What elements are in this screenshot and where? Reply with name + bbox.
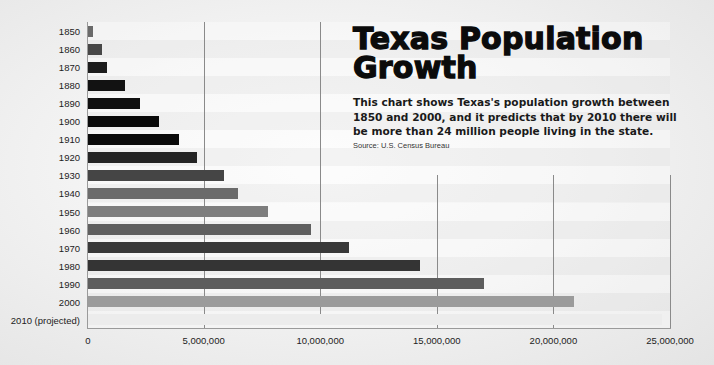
x-tick-label: 0 <box>85 335 90 346</box>
bar <box>88 116 159 127</box>
bar <box>88 44 102 55</box>
x-tick-label: 10,000,000 <box>296 335 344 346</box>
bar <box>88 188 238 199</box>
chart-title: Texas Population Growth <box>353 24 683 82</box>
x-axis-line <box>87 328 671 329</box>
category-label: 2010 (projected) <box>0 315 80 326</box>
y-axis-line <box>87 22 88 329</box>
x-tick-label: 15,000,000 <box>413 335 461 346</box>
category-label: 1980 <box>0 261 80 272</box>
bar <box>88 242 349 253</box>
chart-description: This chart shows Texas's population grow… <box>353 95 693 139</box>
bar <box>88 26 93 37</box>
x-tick-label: 20,000,000 <box>530 335 578 346</box>
category-label: 1920 <box>0 152 80 163</box>
bar <box>88 278 484 289</box>
bar <box>88 80 125 91</box>
category-label: 1990 <box>0 279 80 290</box>
category-label: 1970 <box>0 243 80 254</box>
bar <box>88 260 420 271</box>
category-label: 1900 <box>0 116 80 127</box>
x-tick-label: 25,000,000 <box>646 335 694 346</box>
category-label: 1890 <box>0 98 80 109</box>
bar <box>88 206 268 217</box>
gridline <box>320 22 321 320</box>
category-label: 1940 <box>0 188 80 199</box>
bar <box>88 224 311 235</box>
category-label: 1960 <box>0 225 80 236</box>
category-label: 1870 <box>0 62 80 73</box>
bar <box>88 170 224 181</box>
bar <box>88 98 140 109</box>
category-label: 1950 <box>0 207 80 218</box>
category-label: 1910 <box>0 134 80 145</box>
category-label: 1880 <box>0 80 80 91</box>
bar <box>88 134 179 145</box>
x-tick-label: 5,000,000 <box>182 335 224 346</box>
bar <box>88 314 662 325</box>
category-label: 1930 <box>0 170 80 181</box>
category-label: 2000 <box>0 297 80 308</box>
bar <box>88 296 574 307</box>
bar <box>88 152 197 163</box>
category-label: 1860 <box>0 44 80 55</box>
gridline <box>670 175 671 328</box>
chart-source: Source: U.S. Census Bureau <box>353 141 449 150</box>
category-label: 1850 <box>0 26 80 37</box>
bar <box>88 62 107 73</box>
